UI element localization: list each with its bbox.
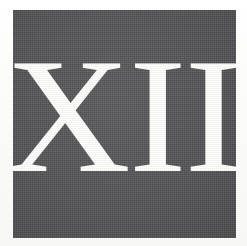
scanned-page: XII (0, 0, 247, 246)
numeral-container: XII (13, 10, 236, 238)
dark-plate-square: XII (13, 10, 236, 238)
roman-numeral-xii: XII (13, 51, 236, 182)
